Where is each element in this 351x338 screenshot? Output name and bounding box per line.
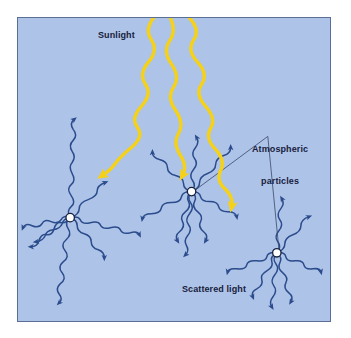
ray-center-up: [191, 137, 198, 191]
scattering-scene: [18, 18, 330, 321]
sunbeam-left: [102, 18, 154, 176]
ray-right-up: [276, 199, 283, 253]
particle-left: [66, 213, 74, 221]
leader-line-to-center-particle: [195, 136, 268, 190]
scattered-rays-center-particle: [142, 137, 236, 254]
ray-left-up: [68, 119, 75, 217]
particle-center: [187, 187, 195, 195]
sunbeams-group: [102, 18, 232, 207]
ray-center-downright: [192, 192, 207, 241]
scattered-rays-left-particle: [23, 119, 139, 303]
ray-center-left: [142, 192, 191, 219]
ray-left-down: [57, 218, 70, 303]
particle-right: [273, 249, 281, 257]
sunbeam-center: [166, 18, 184, 176]
ray-left-upright: [70, 183, 105, 218]
leader-lines-group: [195, 136, 279, 248]
ray-center-upright: [192, 147, 231, 191]
leader-line-to-right-particle: [268, 136, 279, 248]
diagram-panel: [17, 17, 331, 322]
figure-root: Sunlight Atmospheric particles Scattered…: [0, 0, 351, 338]
ray-right-right: [277, 253, 321, 272]
